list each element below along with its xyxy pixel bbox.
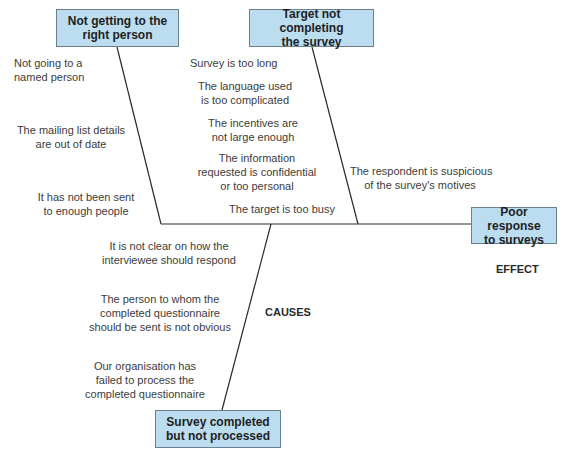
- cause-label: It has not been sent to enough people: [34, 190, 138, 218]
- category-label: Target not completing: [250, 7, 373, 35]
- category-label: the survey: [250, 35, 373, 49]
- category-label: right person: [68, 28, 167, 42]
- effect-box: Poor response to surveys: [471, 207, 557, 244]
- cause-label: It is not clear on how the interviewee s…: [102, 239, 236, 267]
- causes-tag: CAUSES: [265, 306, 311, 318]
- cause-label: The target is too busy: [224, 202, 340, 216]
- effect-tag: EFFECT: [496, 263, 539, 275]
- figure-caption-fragment: [0, 453, 300, 462]
- category-label: Not getting to the: [68, 14, 167, 28]
- cause-label: The information requested is confidentia…: [196, 151, 318, 193]
- category-box-completed-not-processed: Survey completed but not processed: [155, 410, 281, 448]
- effect-label: Poor response: [472, 205, 556, 233]
- cause-label: The person to whom the completed questio…: [86, 292, 234, 334]
- cause-label: Our organisation has failed to process t…: [82, 359, 208, 401]
- cause-label: Not going to a named person: [14, 56, 84, 84]
- cause-label: The respondent is suspicious of the surv…: [350, 164, 490, 192]
- cause-label: The language used is too complicated: [197, 79, 293, 107]
- category-box-not-right-person: Not getting to the right person: [56, 9, 179, 47]
- category-box-target-not-completing: Target not completing the survey: [249, 9, 374, 47]
- category-label: but not processed: [166, 429, 270, 443]
- category-label: Survey completed: [166, 415, 270, 429]
- cause-label: The incentives are not large enough: [207, 116, 299, 144]
- cause-label: Survey is too long: [190, 56, 277, 70]
- cause-label: The mailing list details are out of date: [12, 123, 130, 151]
- effect-label: to surveys: [472, 233, 556, 247]
- bone-target-not-completing: [312, 47, 358, 224]
